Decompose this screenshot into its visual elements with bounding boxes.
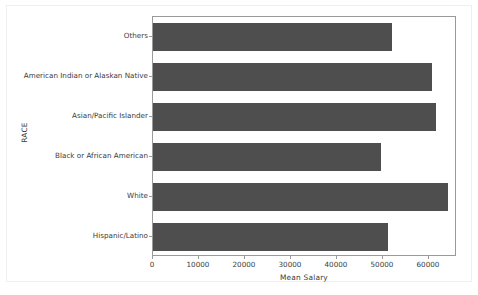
x-axis-tick-mark — [290, 256, 291, 259]
y-axis-tick-label: Asian/Pacific Islander — [0, 111, 148, 120]
x-axis-tick-mark — [382, 256, 383, 259]
bar — [153, 223, 456, 251]
y-axis-tick-label: White — [0, 191, 148, 200]
bar — [153, 63, 456, 91]
x-axis-tick-mark — [152, 256, 153, 259]
x-axis-title: Mean Salary — [152, 273, 456, 282]
bar-fill — [153, 23, 392, 51]
bar — [153, 143, 456, 171]
x-axis-tick-mark — [244, 256, 245, 259]
bar-fill — [153, 223, 388, 251]
x-axis-tick-mark — [198, 256, 199, 259]
plot-area — [152, 16, 456, 256]
bar-chart-figure: RACE OthersAmerican Indian or Alaskan Na… — [0, 0, 478, 295]
x-axis-tick-mark — [428, 256, 429, 259]
bar-fill — [153, 143, 381, 171]
y-axis-tick-label: Hispanic/Latino — [0, 231, 148, 240]
x-axis-tick-mark — [336, 256, 337, 259]
bar-fill — [153, 103, 436, 131]
y-axis-tick-label: Others — [0, 31, 148, 40]
y-axis-tick-label: Black or African American — [0, 151, 148, 160]
bar-fill — [153, 63, 432, 91]
bar — [153, 103, 456, 131]
x-axis-tick-label: 60000 — [398, 260, 458, 269]
bar — [153, 23, 456, 51]
bar-fill — [153, 183, 448, 211]
y-axis-tick-label: American Indian or Alaskan Native — [0, 71, 148, 80]
bar — [153, 183, 456, 211]
